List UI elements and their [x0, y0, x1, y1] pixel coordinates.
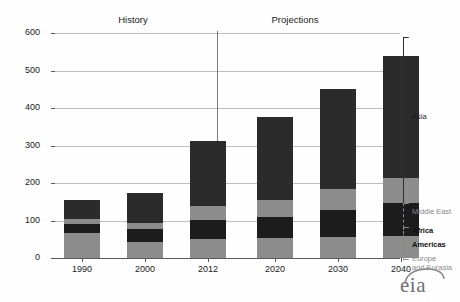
bar-segment-middle-east-2012 [190, 206, 226, 217]
y-tick-400: 400 [25, 102, 40, 112]
legend: Asia Middle East Africa Americas Europe … [401, 33, 460, 258]
bar-segment-europe-and-eurasia-2020 [257, 238, 293, 258]
bar-segment-europe-and-eurasia-2030 [320, 237, 356, 258]
bar-segment-asia-2000 [127, 193, 163, 223]
x-tick-label-2000: 2000 [135, 264, 155, 274]
bar-2030 [320, 89, 356, 259]
legend-brace-europe [403, 236, 409, 260]
y-tick-600: 600 [25, 27, 40, 37]
x-tick-label-1990: 1990 [72, 264, 92, 274]
bar-segment-asia-1990 [64, 200, 100, 220]
bar-segment-asia-2030 [320, 89, 356, 190]
x-tick-label-2030: 2030 [328, 264, 348, 274]
x-tickmark-2030 [338, 258, 339, 262]
bar-segment-americas-2030 [320, 210, 356, 237]
x-tickmark-2020 [275, 258, 276, 262]
bar-segment-americas-2020 [257, 217, 293, 238]
bar-segment-asia-2020 [257, 117, 293, 201]
legend-label-africa: Africa [412, 227, 433, 236]
projections-caption: Projections [272, 14, 319, 25]
legend-brace-asia [403, 37, 409, 204]
eia-logo: eia [400, 264, 448, 298]
bar-segment-americas-1990 [64, 224, 100, 233]
bar-segment-europe-and-eurasia-1990 [64, 233, 100, 258]
bar-segment-asia-2012 [190, 141, 226, 206]
bar-2000 [127, 193, 163, 258]
y-tick-100: 100 [25, 215, 40, 225]
chart-root: 600 500 400 300 200 100 0 History Projec… [0, 0, 460, 302]
bar-1990 [64, 200, 100, 258]
bar-segment-europe-and-eurasia-2012 [190, 239, 226, 258]
bar-segment-americas-2000 [127, 229, 163, 242]
legend-label-asia: Asia [412, 113, 427, 122]
x-tickmark-2000 [145, 258, 146, 262]
x-tickmark-2040 [401, 258, 402, 262]
x-tick-label-2020: 2020 [265, 264, 285, 274]
y-tick-0: 0 [35, 252, 40, 262]
x-tick-label-2012: 2012 [198, 264, 218, 274]
legend-label-americas: Americas [412, 241, 446, 250]
x-axis-line [55, 258, 400, 259]
bar-segment-europe-and-eurasia-2000 [127, 242, 163, 258]
plot-area [55, 33, 400, 258]
bar-segment-middle-east-2020 [257, 200, 293, 214]
y-tick-200: 200 [25, 177, 40, 187]
eia-logo-text: eia [400, 273, 426, 298]
y-tick-500: 500 [25, 65, 40, 75]
bar-segment-americas-2012 [190, 220, 226, 240]
legend-label-middle-east: Middle East [412, 208, 451, 217]
legend-brace-middle-east [403, 203, 409, 228]
y-axis-labels: 600 500 400 300 200 100 0 [0, 33, 48, 258]
y-tick-300: 300 [25, 140, 40, 150]
bar-group [55, 33, 400, 258]
x-tickmark-2012 [208, 258, 209, 262]
x-tickmark-1990 [82, 258, 83, 262]
history-caption: History [118, 14, 148, 25]
bar-2012 [190, 141, 226, 258]
bar-2020 [257, 117, 293, 258]
bar-segment-middle-east-2030 [320, 189, 356, 206]
